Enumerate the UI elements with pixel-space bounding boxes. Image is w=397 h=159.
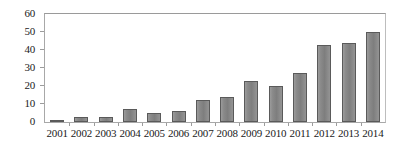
y-axis: 0102030405060 [0, 13, 41, 123]
bar [147, 113, 161, 122]
x-tick-label: 2001 [45, 127, 69, 139]
x-tick-mark [361, 123, 362, 126]
x-tick-mark [264, 123, 265, 126]
x-tick-label: 2011 [288, 127, 312, 139]
bar [74, 117, 88, 122]
x-tick-mark [312, 123, 313, 126]
y-tick-label: 10 [24, 98, 35, 109]
y-tick-mark [40, 85, 44, 86]
y-tick-label: 60 [24, 8, 35, 19]
y-tick-label: 30 [24, 62, 35, 73]
bar-chart: 0102030405060 20012002200320042005200620… [0, 0, 397, 159]
x-tick-mark [336, 123, 337, 126]
x-axis: 2001200220032004200520062007200820092010… [45, 127, 385, 147]
y-tick-label: 50 [24, 26, 35, 37]
x-tick-label: 2002 [69, 127, 93, 139]
x-tick-label: 2014 [361, 127, 385, 139]
x-tick-label: 2003 [94, 127, 118, 139]
y-tick-label: 0 [30, 116, 35, 127]
x-tick-mark [142, 123, 143, 126]
x-tick-label: 2008 [215, 127, 239, 139]
y-tick-mark [40, 67, 44, 68]
y-tick-label: 40 [24, 44, 35, 55]
bar [317, 45, 331, 122]
x-tick-label: 2010 [264, 127, 288, 139]
bar [293, 73, 307, 122]
bars-layer [45, 14, 385, 122]
y-tick-label: 20 [24, 80, 35, 91]
x-tick-label: 2004 [118, 127, 142, 139]
x-tick-mark [288, 123, 289, 126]
x-tick-label: 2005 [142, 127, 166, 139]
x-tick-label: 2012 [312, 127, 336, 139]
x-tick-mark [94, 123, 95, 126]
bar [220, 97, 234, 122]
bar [172, 111, 186, 122]
bar [99, 117, 113, 122]
x-tick-mark [239, 123, 240, 126]
x-tick-mark [166, 123, 167, 126]
x-tick-label: 2007 [191, 127, 215, 139]
x-tick-label: 2009 [239, 127, 263, 139]
x-tick-mark [69, 123, 70, 126]
bar [342, 43, 356, 122]
bar [123, 109, 137, 122]
bar [50, 120, 64, 122]
bar [269, 86, 283, 122]
x-tick-label: 2006 [166, 127, 190, 139]
y-tick-mark [40, 31, 44, 32]
x-tick-mark [118, 123, 119, 126]
x-tick-mark [215, 123, 216, 126]
bar [196, 100, 210, 122]
x-tick-label: 2013 [336, 127, 360, 139]
x-tick-mark [191, 123, 192, 126]
y-tick-mark [40, 103, 44, 104]
bar [366, 32, 380, 122]
y-tick-mark [40, 49, 44, 50]
bar [244, 81, 258, 122]
